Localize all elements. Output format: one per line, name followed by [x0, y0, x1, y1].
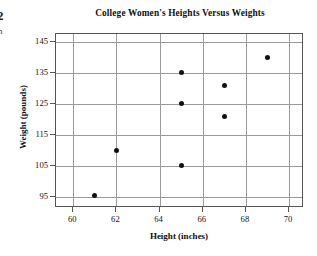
page-margin-artifacts: 2 n — [0, 0, 14, 60]
data-point — [179, 163, 184, 168]
y-axis-tick-labels: 95105115125135145 — [22, 0, 48, 256]
gridline-horizontal — [56, 42, 302, 43]
x-axis-tick-label: 70 — [275, 214, 301, 224]
x-axis-tick-label: 68 — [232, 214, 258, 224]
y-axis-tick — [50, 41, 55, 42]
y-axis-tick — [50, 72, 55, 73]
plot-area — [56, 34, 302, 206]
y-axis-tick-label: 145 — [24, 36, 48, 46]
y-axis-tick-label: 115 — [24, 129, 48, 139]
gridline-vertical — [73, 34, 74, 206]
x-axis-tick — [245, 207, 246, 212]
x-axis-tick-label: 60 — [59, 214, 85, 224]
y-axis-tick — [50, 103, 55, 104]
x-axis-tick-label: 62 — [102, 214, 128, 224]
plot-frame — [55, 33, 303, 207]
x-axis-tick — [202, 207, 203, 212]
y-axis-tick-label: 105 — [24, 160, 48, 170]
x-axis-tick-label: 66 — [189, 214, 215, 224]
data-point — [222, 83, 227, 88]
clipped-margin-glyph: n — [0, 26, 3, 36]
page-number: 2 — [0, 8, 3, 24]
gridline-vertical — [246, 34, 247, 206]
x-axis-tick-label: 64 — [146, 214, 172, 224]
y-axis-tick-label: 135 — [24, 67, 48, 77]
gridline-vertical — [203, 34, 204, 206]
chart-title: College Women's Heights Versus Weights — [55, 8, 305, 18]
data-point — [114, 148, 119, 153]
x-axis-tick — [72, 207, 73, 212]
y-axis-tick-label: 95 — [24, 191, 48, 201]
gridline-vertical — [289, 34, 290, 206]
data-point — [179, 101, 184, 106]
x-axis-tick — [159, 207, 160, 212]
x-axis-tick — [115, 207, 116, 212]
gridline-vertical — [116, 34, 117, 206]
gridline-horizontal — [56, 135, 302, 136]
data-point — [222, 114, 227, 119]
y-axis-tick — [50, 196, 55, 197]
y-axis-tick-label: 125 — [24, 98, 48, 108]
y-axis-tick — [50, 134, 55, 135]
y-axis-tick — [50, 165, 55, 166]
x-axis-tick — [288, 207, 289, 212]
data-point — [265, 55, 270, 60]
data-point — [179, 70, 184, 75]
gridline-vertical — [160, 34, 161, 206]
x-axis-title: Height (inches) — [55, 231, 303, 241]
